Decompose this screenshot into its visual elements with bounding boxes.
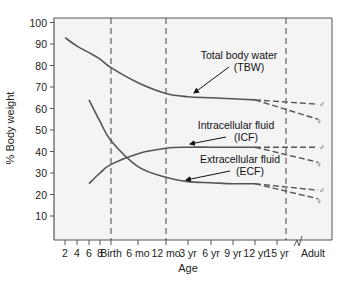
x-tick-label: 12 yr [243,247,267,259]
annotation-icf-abbr: (ICF) [234,131,258,143]
x-tick-label: 6 yr [202,247,220,259]
x-tick-label: 12 mo [151,247,180,259]
y-tick-label: 30 [35,167,47,179]
x-tick-label: Birth [100,247,122,259]
y-tick-label: 90 [35,38,47,50]
plot-background [54,18,332,240]
body-water-chart: ♂♀♂♀♂♀ Total body water(TBW)Intracellula… [0,0,348,284]
annotation-ecf-name: Extracellular fluid [200,153,280,165]
x-tick-label: 9 yr [224,247,242,259]
x-tick-label: Adult [301,247,325,259]
male-symbol-icon: ♂ [319,143,325,152]
y-tick-label: 70 [35,81,47,93]
female-symbol-icon: ♀ [316,197,322,206]
annotation-ecf-abbr: (ECF) [236,165,264,177]
y-tick-label: 100 [29,17,47,29]
x-tick-label: 6 [86,247,92,259]
x-tick-label: 6 mo [126,247,150,259]
y-axis-title: % Body weight [4,92,16,165]
female-symbol-icon: ♀ [316,160,322,169]
annotation-icf-name: Intracellular fluid [198,119,275,131]
male-symbol-icon: ♂ [319,100,325,109]
male-symbol-icon: ♂ [319,186,325,195]
female-symbol-icon: ♀ [316,117,322,126]
y-tick-label: 10 [35,210,47,222]
y-tick-label: 60 [35,103,47,115]
y-tick-label: 80 [35,60,47,72]
y-tick-label: 50 [35,124,47,136]
x-tick-label: 4 [74,247,80,259]
x-axis-title: Age [178,262,198,274]
annotation-tbw-abbr: (TBW) [234,61,264,73]
x-tick-label: 2 [62,247,68,259]
x-tick-label: 3 yr [179,247,197,259]
x-tick-label: 15 yr [265,247,289,259]
y-tick-label: 40 [35,146,47,158]
annotation-tbw-name: Total body water [201,49,278,61]
y-tick-label: 20 [35,189,47,201]
